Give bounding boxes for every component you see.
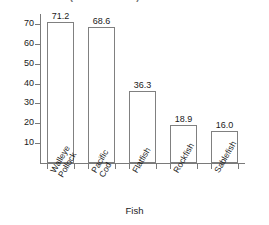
bar-value-label: 18.9 <box>162 114 205 124</box>
x-axis-title: Fish <box>0 205 269 216</box>
y-tick-10 <box>35 143 41 144</box>
y-tick-label-70: 70 <box>0 19 34 28</box>
y-tick-70 <box>35 24 41 25</box>
bar-value-label: 36.3 <box>121 80 164 90</box>
y-tick-label-50: 50 <box>0 59 34 68</box>
y-tick-30 <box>35 103 41 104</box>
x-tick <box>74 164 75 169</box>
y-tick-label-40: 40 <box>0 79 34 88</box>
bar <box>88 27 115 163</box>
x-tick <box>238 164 239 169</box>
y-axis-line <box>40 14 41 164</box>
y-tick-40 <box>35 84 41 85</box>
y-tick-60 <box>35 44 41 45</box>
bar-value-label: 68.6 <box>80 16 123 26</box>
x-tick <box>197 164 198 169</box>
y-tick-20 <box>35 123 41 124</box>
bar-value-label: 71.2 <box>39 11 82 21</box>
y-tick-label-10: 10 <box>0 138 34 147</box>
y-tick-50 <box>35 64 41 65</box>
x-tick <box>156 164 157 169</box>
bar-value-label: 16.0 <box>203 120 246 130</box>
bar <box>47 22 74 163</box>
bar-chart: (in millions lbs) Pareto Chart 102030405… <box>0 0 269 225</box>
y-tick-label-20: 20 <box>0 118 34 127</box>
y-tick-label-30: 30 <box>0 98 34 107</box>
y-tick-label-60: 60 <box>0 39 34 48</box>
chart-title-clipped: (in millions lbs) Pareto Chart <box>0 0 269 2</box>
x-tick <box>115 164 116 169</box>
